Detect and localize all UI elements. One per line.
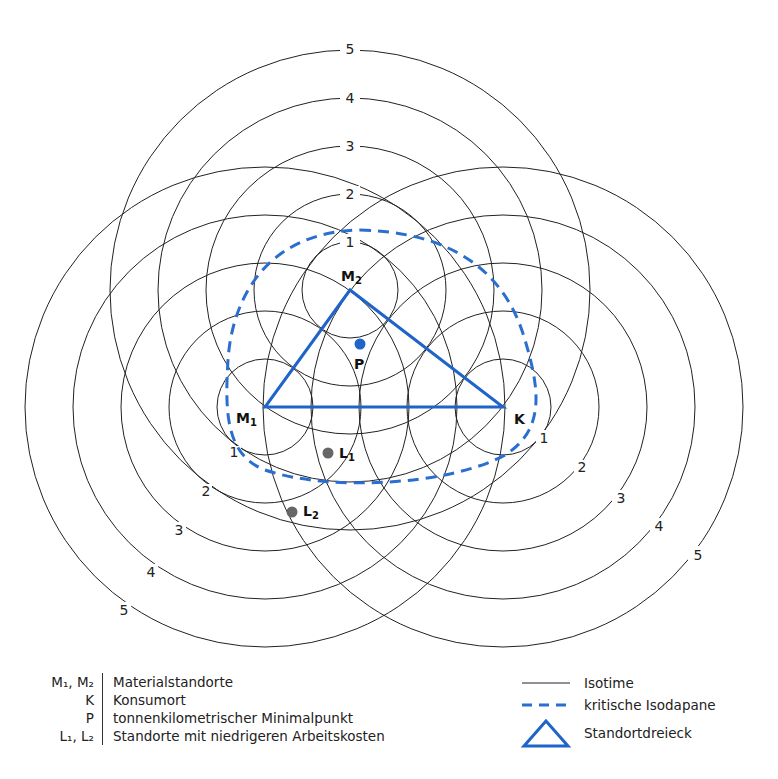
triangle-icon: [520, 717, 572, 749]
legend-text: Konsumort: [103, 691, 186, 709]
legend-row: L₁, L₂ Standorte mit niedrigeren Arbeits…: [12, 727, 385, 745]
legend-row-isotime: Isotime: [520, 672, 716, 694]
legend-text: Standortdreieck: [584, 724, 692, 742]
svg-text:4: 4: [655, 518, 664, 534]
label-k: K: [514, 411, 526, 427]
legend-text: Standorte mit niedrigeren Arbeitskosten: [103, 727, 385, 745]
legend-row: M₁, M₂ Materialstandorte: [12, 673, 385, 691]
legend-row-isodapane: kritische Isodapane: [520, 694, 716, 716]
svg-text:1: 1: [230, 444, 239, 460]
legend-text: Isotime: [584, 674, 634, 692]
legend-text: Materialstandorte: [103, 673, 233, 691]
legend-text: kritische Isodapane: [584, 696, 716, 714]
svg-text:4: 4: [346, 90, 355, 106]
svg-text:5: 5: [346, 41, 355, 57]
dashed-line-icon: [520, 700, 572, 710]
svg-text:3: 3: [346, 138, 355, 154]
legend-symbol: K: [12, 691, 103, 709]
legend-row: P tonnenkilometrischer Minimalpunkt: [12, 709, 385, 727]
svg-text:5: 5: [694, 547, 703, 563]
legend-row-triangle: Standortdreieck: [520, 716, 716, 750]
label-l1: L1: [339, 445, 355, 463]
legend-lines: Isotime kritische Isodapane Standortdrei…: [520, 672, 716, 750]
label-l2: L2: [303, 503, 319, 521]
svg-text:2: 2: [346, 186, 355, 202]
critical-isodapane: [227, 230, 536, 483]
isotime-labels-m1: 1 2 3 4 5: [115, 444, 241, 618]
legend-symbol: M₁, M₂: [12, 673, 103, 691]
legend-symbol: L₁, L₂: [12, 727, 103, 745]
label-m1: M1: [236, 410, 257, 428]
label-m2: M2: [341, 268, 362, 286]
location-triangle-diagram: 1 2 3 4 5 1 2 3 4 5 1 2 3 4 5 M2 M1 K P …: [0, 0, 778, 660]
location-triangle: [265, 290, 503, 407]
isotime-labels-k: 1 2 3 4 5: [536, 430, 704, 563]
svg-text:4: 4: [147, 564, 156, 580]
label-p: P: [354, 356, 364, 372]
svg-text:5: 5: [120, 602, 129, 618]
point-l1: [323, 448, 334, 459]
svg-text:2: 2: [578, 459, 587, 475]
legend-row: K Konsumort: [12, 691, 385, 709]
isotime-labels-m2: 1 2 3 4 5: [340, 41, 360, 250]
svg-text:1: 1: [540, 430, 549, 446]
legend-symbol: P: [12, 709, 103, 727]
point-l2: [287, 507, 298, 518]
svg-text:3: 3: [617, 490, 626, 506]
svg-text:3: 3: [175, 522, 184, 538]
legend-symbols: M₁, M₂ Materialstandorte K Konsumort P t…: [12, 673, 385, 745]
legend-text: tonnenkilometrischer Minimalpunkt: [103, 709, 353, 727]
svg-text:2: 2: [202, 483, 211, 499]
svg-text:1: 1: [346, 234, 355, 250]
point-p: [355, 339, 366, 350]
solid-line-icon: [520, 678, 572, 688]
